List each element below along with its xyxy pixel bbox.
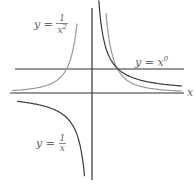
- denominator: x2: [56, 23, 68, 35]
- label-x-zero: y = x0: [135, 56, 168, 68]
- exponent: 0: [164, 55, 168, 63]
- numerator: 1: [58, 134, 66, 143]
- function-graph-diagram: y = 1 x2 y = x0 x y = 1 x: [0, 0, 196, 187]
- numerator: 1: [58, 14, 66, 23]
- plot-area: [0, 0, 196, 187]
- label-lhs: y = x: [135, 56, 164, 69]
- fraction: 1 x: [58, 134, 66, 153]
- label-inverse-square: y = 1 x2: [34, 14, 68, 35]
- label-lhs: y =: [34, 18, 53, 31]
- label-inverse: y = 1 x: [36, 134, 66, 153]
- exponent: 2: [63, 23, 67, 31]
- x-axis-label: x: [187, 87, 193, 98]
- label-lhs: y =: [36, 137, 55, 150]
- denominator: x: [59, 143, 66, 153]
- fraction: 1 x2: [56, 14, 68, 35]
